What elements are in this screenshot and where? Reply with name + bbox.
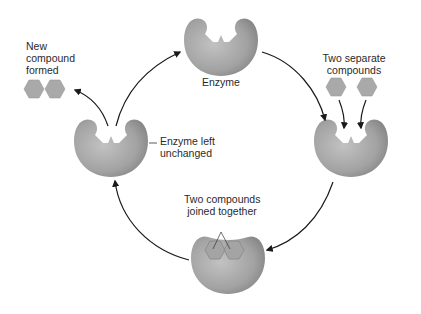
- label-new-compound-formed: New compound formed: [26, 40, 75, 76]
- label-unchanged-line1: Enzyme left: [160, 135, 215, 147]
- product-hexagons: [24, 80, 65, 98]
- label-new-line3: formed: [26, 64, 75, 76]
- enzyme-cycle-diagram: Enzyme Two separate compounds Two compou…: [0, 0, 421, 314]
- enzyme-top-shape: [184, 18, 258, 76]
- label-enzyme: Enzyme: [196, 76, 246, 88]
- label-enzyme-left-unchanged: Enzyme left unchanged: [160, 135, 215, 159]
- compound-hexagon-b: [357, 78, 377, 96]
- arrow-compound-b-in: [361, 100, 366, 128]
- label-compounds-joined-together: Two compounds joined together: [184, 193, 260, 217]
- enzyme-right-shape: [314, 119, 388, 177]
- label-joined-line1: Two compounds: [184, 193, 260, 205]
- arrow-left-to-top: [116, 52, 180, 126]
- arrow-right-to-bottom: [267, 182, 333, 250]
- label-two-separate-compounds: Two separate compounds: [314, 52, 394, 76]
- arrow-compound-a-in: [339, 100, 344, 128]
- label-two-separate-line1: Two separate: [314, 52, 394, 64]
- label-joined-line2: joined together: [184, 205, 260, 217]
- label-unchanged-line2: unchanged: [160, 147, 215, 159]
- arrow-bottom-to-left: [115, 181, 189, 260]
- compound-hexagon-a: [326, 78, 346, 96]
- enzyme-left-shape: [74, 119, 148, 177]
- label-two-separate-line2: compounds: [314, 64, 394, 76]
- label-new-line2: compound: [26, 52, 75, 64]
- label-new-line1: New: [26, 40, 75, 52]
